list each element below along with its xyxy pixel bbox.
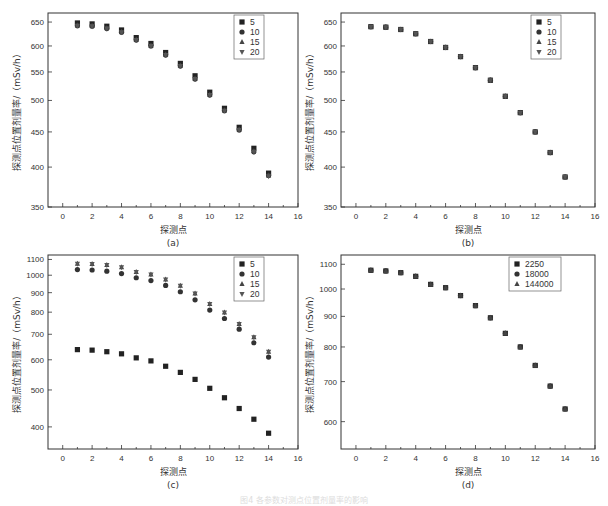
x-tick-label: 10 (205, 212, 214, 221)
legend-entry: 5 (250, 17, 255, 27)
x-tick-label: 0 (60, 454, 65, 463)
x-axis-label: 探测点 (160, 224, 187, 235)
legend-entry: 5 (250, 259, 255, 269)
x-tick-label: 4 (413, 454, 418, 463)
x-tick-label: 0 (354, 454, 359, 463)
panel-label: (b) (462, 238, 475, 248)
y-tick-label: 600 (324, 418, 338, 427)
y-tick-label: 800 (31, 308, 45, 317)
y-tick-label: 550 (31, 68, 45, 77)
x-tick-label: 8 (473, 454, 478, 463)
y-tick-label: 550 (324, 68, 338, 77)
panel-label: (a) (167, 238, 180, 248)
x-tick-label: 4 (119, 454, 124, 463)
y-tick-label: 900 (324, 312, 338, 321)
x-tick-label: 8 (178, 212, 183, 221)
legend: 5101520 (234, 257, 264, 301)
legend-entry: 144000 (525, 279, 554, 289)
panel-label: (d) (462, 480, 475, 490)
chart-panel-a: 0246810121416350400450500550600650探测点探测点… (11, 13, 303, 248)
y-tick-label: 450 (31, 128, 45, 137)
x-tick-label: 8 (178, 454, 183, 463)
y-tick-label: 600 (31, 42, 45, 51)
panel-label: (c) (167, 480, 179, 490)
x-tick-label: 16 (294, 454, 303, 463)
legend: 5101520 (234, 15, 264, 59)
legend-entry: 15 (547, 37, 557, 47)
x-tick-label: 12 (235, 454, 244, 463)
y-tick-label: 400 (324, 163, 338, 172)
figure-caption: 图4 各参数对测点位置剂量率的影响 (0, 494, 608, 505)
series-5 (75, 347, 271, 436)
x-tick-label: 12 (235, 212, 244, 221)
x-tick-label: 14 (264, 454, 273, 463)
x-tick-label: 16 (591, 212, 600, 221)
chart-panel-b: 0246810121416350400450500550600650探测点探测点… (304, 13, 600, 248)
legend-entry: 20 (250, 289, 260, 299)
y-tick-label: 1000 (319, 285, 337, 294)
y-axis-label: 探测点位置剂量率/（mSv/h） (11, 291, 22, 413)
legend-entry: 10 (250, 27, 260, 37)
x-tick-label: 14 (561, 212, 570, 221)
legend-entry: 15 (250, 279, 260, 289)
y-tick-label: 1100 (320, 260, 338, 269)
legend-entry: 20 (250, 47, 260, 57)
x-tick-label: 2 (384, 454, 389, 463)
y-axis-label: 探测点位置剂量率/（mSv/h） (304, 291, 315, 413)
x-tick-label: 10 (205, 454, 214, 463)
y-tick-label: 650 (31, 18, 45, 27)
x-tick-label: 6 (149, 454, 154, 463)
chart-panel-c: 024681012141640050060070080090010001100探… (11, 255, 303, 490)
y-tick-label: 400 (31, 423, 45, 432)
x-tick-label: 6 (443, 454, 448, 463)
legend-entry: 10 (547, 27, 557, 37)
x-tick-label: 14 (561, 454, 570, 463)
y-tick-label: 1000 (26, 271, 44, 280)
legend-entry: 10 (250, 269, 260, 279)
x-tick-label: 4 (413, 212, 418, 221)
y-tick-label: 500 (31, 96, 45, 105)
y-tick-label: 700 (324, 378, 338, 387)
legend-entry: 5 (547, 17, 552, 27)
y-tick-label: 900 (31, 289, 45, 298)
x-axis-label: 探测点 (455, 224, 482, 235)
x-tick-label: 0 (60, 212, 65, 221)
x-tick-label: 2 (90, 454, 95, 463)
x-tick-label: 16 (294, 212, 303, 221)
x-tick-label: 6 (443, 212, 448, 221)
y-tick-label: 450 (324, 128, 338, 137)
legend: 5101520 (531, 15, 561, 59)
legend-entry: 20 (547, 47, 557, 57)
y-tick-label: 500 (324, 96, 338, 105)
y-tick-label: 350 (31, 203, 45, 212)
legend-entry: 15 (250, 37, 260, 47)
legend-entry: 18000 (525, 269, 549, 279)
y-axis-label: 探测点位置剂量率/（mSv/h） (304, 49, 315, 171)
x-tick-label: 12 (531, 454, 540, 463)
y-tick-label: 1100 (27, 255, 45, 264)
y-tick-label: 500 (31, 386, 45, 395)
x-tick-label: 8 (473, 212, 478, 221)
x-tick-label: 10 (501, 212, 510, 221)
y-tick-label: 700 (31, 330, 45, 339)
y-tick-label: 350 (324, 203, 338, 212)
x-axis-label: 探测点 (455, 466, 482, 477)
x-tick-label: 4 (119, 212, 124, 221)
x-tick-label: 12 (531, 212, 540, 221)
y-axis-label: 探测点位置剂量率/（mSv/h） (11, 49, 22, 171)
x-tick-label: 0 (354, 212, 359, 221)
x-tick-label: 6 (149, 212, 154, 221)
x-tick-label: 10 (501, 454, 510, 463)
legend-entry: 2250 (525, 259, 544, 269)
y-tick-label: 600 (31, 356, 45, 365)
chart-panel-d: 024681012141660070080090010001100探测点探测点位… (304, 255, 600, 490)
y-tick-label: 600 (324, 42, 338, 51)
y-tick-label: 650 (324, 18, 338, 27)
y-tick-label: 800 (324, 343, 338, 352)
x-tick-label: 2 (384, 212, 389, 221)
x-axis-label: 探测点 (160, 466, 187, 477)
legend: 225018000144000 (509, 257, 561, 291)
x-tick-label: 16 (591, 454, 600, 463)
x-tick-label: 2 (90, 212, 95, 221)
x-tick-label: 14 (264, 212, 273, 221)
